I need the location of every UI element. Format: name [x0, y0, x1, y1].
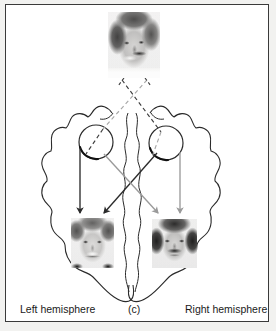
- left-hemisphere-percept-image: [71, 218, 114, 268]
- chimeric-face-stimulus: [108, 12, 160, 78]
- panel-label: (c): [128, 303, 140, 315]
- right-hemisphere-percept-image: [152, 219, 197, 268]
- figure-panel: Left hemisphere (c) Right hemisphere: [0, 0, 276, 331]
- left-hemisphere-label: Left hemisphere: [20, 303, 95, 315]
- figure-stage: Left hemisphere (c) Right hemisphere: [0, 0, 276, 331]
- right-hemisphere-label: Right hemisphere: [185, 303, 267, 315]
